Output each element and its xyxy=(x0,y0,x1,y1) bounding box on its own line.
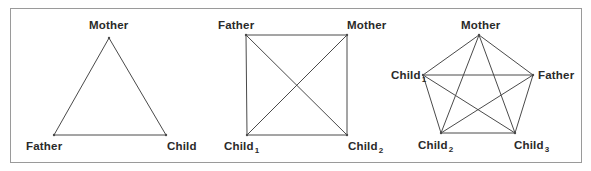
label-subscript: 3 xyxy=(545,145,550,154)
edge xyxy=(423,75,515,133)
edge xyxy=(479,35,533,75)
label-text: Child xyxy=(514,139,544,151)
label-subscript: 2 xyxy=(449,145,454,154)
square-node-mother: Mother xyxy=(347,20,387,32)
label-text: Child xyxy=(224,140,254,152)
triangle-node-child: Child xyxy=(167,141,197,153)
label-text: Child xyxy=(391,69,421,81)
triangle-graph xyxy=(53,37,167,136)
pentagon-node-child-1: Child1 xyxy=(391,70,426,84)
label-subscript: 1 xyxy=(422,75,427,84)
label-text: Father xyxy=(26,140,62,152)
edge xyxy=(423,35,479,75)
edge xyxy=(246,35,247,135)
label-text: Child xyxy=(167,140,197,152)
pentagon-node-child-2: Child2 xyxy=(418,140,453,154)
pentagon-graph xyxy=(422,34,534,134)
edge xyxy=(479,35,515,133)
square-node-father: Father xyxy=(218,20,254,32)
label-subscript: 1 xyxy=(255,146,260,155)
label-text: Father xyxy=(218,19,254,31)
edge xyxy=(441,35,479,133)
edge xyxy=(515,75,533,133)
label-text: Mother xyxy=(89,19,129,31)
square-node-child-1: Child1 xyxy=(224,141,259,155)
pentagon-node-child-3: Child3 xyxy=(514,140,549,154)
node-dot xyxy=(478,34,480,36)
node-dot xyxy=(165,134,167,136)
label-text: Mother xyxy=(461,19,501,31)
triangle-node-mother: Mother xyxy=(89,20,129,32)
pentagon-node-mother: Mother xyxy=(461,20,501,32)
label-text: Child xyxy=(348,140,378,152)
edge xyxy=(109,38,166,135)
node-dot xyxy=(514,132,516,134)
node-dot xyxy=(246,134,248,136)
node-dot xyxy=(346,134,348,136)
label-text: Mother xyxy=(347,19,387,31)
square-node-child-2: Child2 xyxy=(348,141,383,155)
label-text: Father xyxy=(538,69,574,81)
node-dot xyxy=(53,134,55,136)
edge xyxy=(54,38,109,135)
label-subscript: 2 xyxy=(379,146,384,155)
label-text: Child xyxy=(418,139,448,151)
node-dot xyxy=(440,132,442,134)
node-dot xyxy=(108,37,110,39)
pentagon-node-father: Father xyxy=(538,70,574,82)
node-dot xyxy=(245,34,247,36)
node-dot xyxy=(346,34,348,36)
node-dot xyxy=(532,74,534,76)
edge xyxy=(441,75,533,133)
square-graph xyxy=(245,34,348,136)
triangle-node-father: Father xyxy=(26,141,62,153)
